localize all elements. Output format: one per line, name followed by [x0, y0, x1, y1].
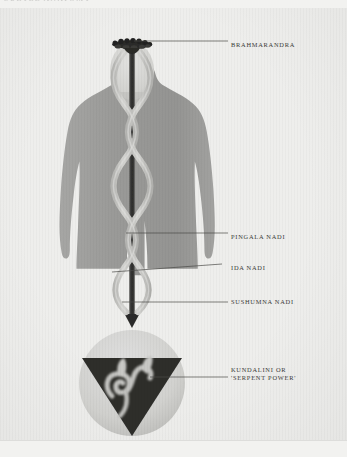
muladhara-chakra [79, 330, 185, 436]
illustration-plate: BRAHMARANDRA PINGALA NADI IDA NADI SUSHU… [0, 8, 347, 441]
plate-inner: BRAHMARANDRA PINGALA NADI IDA NADI SUSHU… [0, 8, 347, 440]
label-pingala-nadi: PINGALA NADI [231, 233, 285, 242]
running-head: SUBTLE ANATOMY [4, 0, 91, 2]
label-sushumna-nadi: SUSHUMNA NADI [231, 298, 294, 307]
illustration-page: SUBTLE ANATOMY [0, 0, 347, 457]
label-ida-nadi: IDA NADI [231, 264, 266, 273]
label-kundalini: KUNDALINI OR 'SERPENT POWER' [231, 366, 296, 383]
label-brahmarandra: BRAHMARANDRA [231, 41, 295, 50]
